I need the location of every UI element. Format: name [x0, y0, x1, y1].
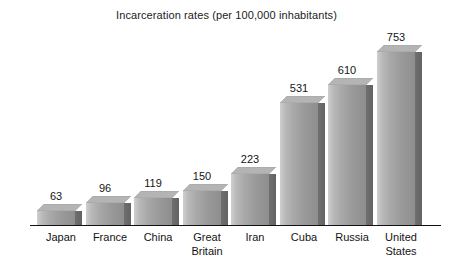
bar-value-label: 753	[377, 31, 415, 43]
bar-value-label: 119	[134, 177, 172, 189]
bar-value-label: 610	[328, 64, 366, 76]
bar-front-face[interactable]	[231, 174, 269, 225]
bar-top-face	[183, 184, 228, 191]
bar-value-label: 223	[231, 153, 269, 165]
bar-group: 96France	[86, 0, 134, 269]
bar-group: 223Iran	[231, 0, 279, 269]
bar-top-face	[377, 45, 422, 52]
bar-value-label: 150	[183, 170, 221, 182]
bar-side-face	[221, 191, 228, 225]
bar-front-face[interactable]	[183, 191, 221, 225]
bar-top-face	[134, 191, 179, 198]
bar-front-face[interactable]	[134, 198, 172, 225]
bar-top-face	[37, 204, 82, 211]
bar-value-label: 63	[37, 190, 75, 202]
bar-group: 119China	[134, 0, 182, 269]
bar-front-face[interactable]	[86, 203, 124, 225]
bar-side-face	[75, 211, 82, 225]
bar-chart: Incarceration rates (per 100,000 inhabit…	[0, 0, 453, 269]
bar-group: 753UnitedStates	[377, 0, 425, 269]
bar-top-face	[280, 96, 325, 103]
bar-top-face	[328, 78, 373, 85]
bar-side-face	[124, 203, 131, 225]
bar-group: 150GreatBritain	[183, 0, 231, 269]
bar-side-face	[366, 85, 373, 225]
bar-group: 610Russia	[328, 0, 376, 269]
plot-area: 63Japan96France119China150GreatBritain22…	[0, 0, 453, 269]
bar-top-face	[231, 167, 276, 174]
bar-category-label-line: States	[372, 244, 430, 258]
bar-front-face[interactable]	[280, 103, 318, 225]
bar-side-face	[269, 174, 276, 225]
bar-category-label-line: Britain	[178, 244, 236, 258]
bar-category-label: UnitedStates	[372, 230, 430, 258]
bar-front-face[interactable]	[328, 85, 366, 225]
bar-side-face	[318, 103, 325, 225]
bar-value-label: 531	[280, 82, 318, 94]
bar-group: 531Cuba	[280, 0, 328, 269]
bar-front-face[interactable]	[37, 211, 75, 225]
bar-value-label: 96	[86, 182, 124, 194]
bar-front-face[interactable]	[377, 52, 415, 225]
bar-category-label-line: United	[372, 230, 430, 244]
bar-side-face	[415, 52, 422, 225]
bar-top-face	[86, 196, 131, 203]
bar-side-face	[172, 198, 179, 225]
bar-group: 63Japan	[37, 0, 85, 269]
